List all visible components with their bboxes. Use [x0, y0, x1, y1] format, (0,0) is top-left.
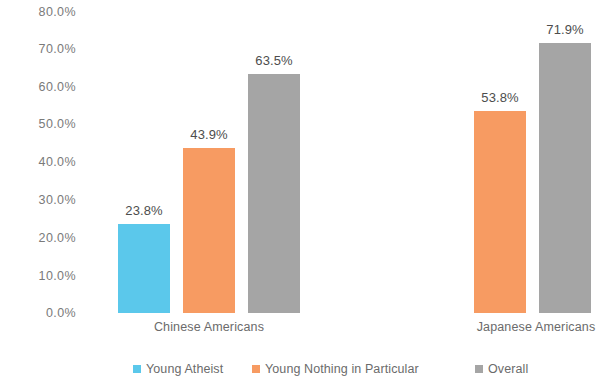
legend-label-overall: Overall: [488, 362, 528, 376]
data-label-japanese-americans-overall: 71.9%: [529, 22, 600, 37]
legend-swatch-icon-young-atheist: [133, 365, 141, 373]
bar-japanese-americans-overall: [539, 43, 591, 313]
bar-chinese-americans-young-nothing-in-particular: [183, 148, 235, 313]
legend-label-young-atheist: Young Atheist: [146, 362, 223, 376]
data-label-japanese-americans-young-nothing-in-particular: 53.8%: [464, 90, 536, 105]
bar-chinese-americans-overall: [248, 74, 300, 313]
legend-swatch-icon-overall: [475, 365, 483, 373]
bar-japanese-americans-young-nothing-in-particular: [474, 111, 526, 313]
legend-item-young-atheist[interactable]: Young Atheist: [133, 362, 223, 376]
data-label-chinese-americans-young-nothing-in-particular: 43.9%: [173, 127, 245, 142]
legend-item-overall[interactable]: Overall: [475, 362, 528, 376]
legend: Young Atheist Young Nothing in Particula…: [0, 362, 579, 382]
data-label-chinese-americans-young-atheist: 23.8%: [108, 203, 180, 218]
legend-swatch-icon-young-nothing-in-particular: [252, 365, 260, 373]
plot-area: 23.8% 43.9% 63.5% 53.8% 71.9%: [0, 0, 579, 313]
data-label-chinese-americans-overall: 63.5%: [238, 53, 310, 68]
legend-item-young-nothing-in-particular[interactable]: Young Nothing in Particular: [252, 362, 419, 376]
legend-label-young-nothing-in-particular: Young Nothing in Particular: [265, 362, 419, 376]
category-label-japanese-americans: Japanese Americans: [462, 320, 600, 334]
category-label-chinese-americans: Chinese Americans: [139, 320, 279, 334]
bar-chinese-americans-young-atheist: [118, 224, 170, 313]
